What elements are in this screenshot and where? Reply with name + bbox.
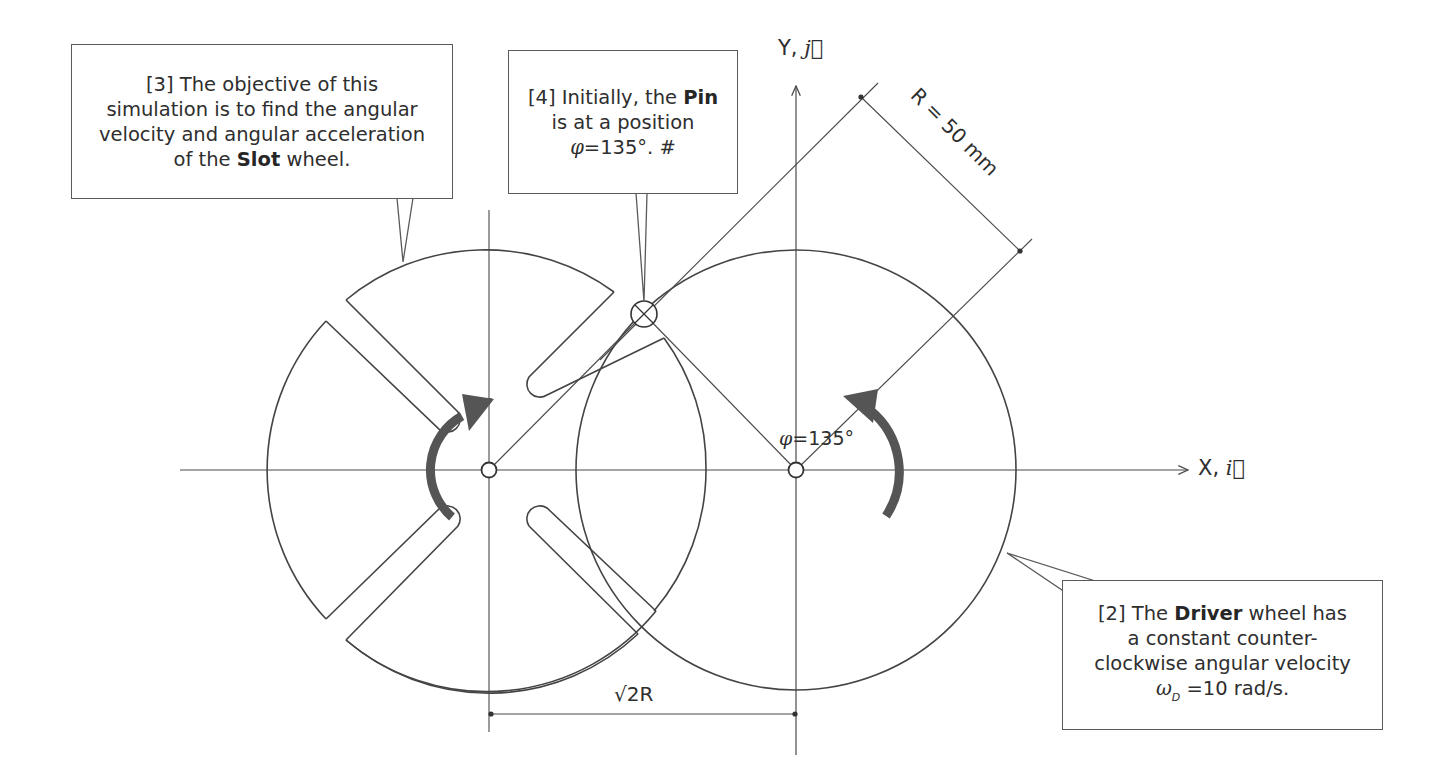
x-axis-label: X, i⃗ bbox=[1198, 456, 1245, 480]
slot-keyword: Slot bbox=[237, 148, 280, 171]
driver-crank-line bbox=[644, 314, 796, 470]
y-axis-label: Y, j⃗ bbox=[778, 36, 823, 60]
callout-driver-wheel: [2] The Driver wheel has a constant coun… bbox=[1062, 580, 1383, 730]
driver-center bbox=[789, 463, 804, 478]
callout-3-tail bbox=[397, 198, 413, 262]
slot-rotation-arrow-icon bbox=[430, 394, 494, 517]
driver-rotation-arrow-icon bbox=[843, 389, 899, 516]
driver-keyword: Driver bbox=[1174, 602, 1242, 625]
callout-pin-initial: [4] Initially, the Pin is at a position … bbox=[508, 50, 738, 194]
slot-wheel-center bbox=[482, 463, 497, 478]
angle-label: φ=135° bbox=[779, 427, 854, 449]
callout-4-tail bbox=[636, 193, 647, 302]
center-distance-dimension bbox=[488, 711, 797, 716]
pin bbox=[631, 301, 657, 327]
center-distance-label: √2R bbox=[614, 682, 653, 706]
callout-slot-objective: [3] The objective of this simulation is … bbox=[71, 44, 453, 199]
pin-keyword: Pin bbox=[683, 86, 718, 109]
slot-wheel-radial-line bbox=[489, 314, 644, 470]
